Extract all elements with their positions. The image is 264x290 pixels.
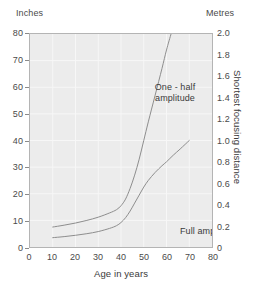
x-tick-50: 50	[134, 252, 154, 262]
curve-layer	[30, 34, 212, 247]
y-tick-right-1: 0.2	[217, 222, 241, 232]
y-tick-mark-left-70	[25, 60, 29, 61]
curve-series-0	[53, 34, 171, 227]
y-tick-left-80: 80	[3, 28, 23, 38]
y-tick-left-20: 20	[3, 189, 23, 199]
x-tick-60: 60	[157, 252, 177, 262]
focusing-distance-chart: Inches Metres One - half amplitude Full …	[0, 0, 264, 290]
y-tick-mark-left-30	[25, 167, 29, 168]
y-tick-left-10: 10	[3, 216, 23, 226]
y-tick-left-30: 30	[3, 162, 23, 172]
x-tick-10: 10	[42, 252, 62, 262]
annotation-one-half-line1: One - half	[155, 82, 196, 92]
y-tick-mark-left-20	[25, 194, 29, 195]
y-tick-right-2: 0.4	[217, 200, 241, 210]
y-tick-mark-left-10	[25, 221, 29, 222]
right-axis-title: Shortest focusing distance	[232, 70, 243, 184]
y-tick-right-9: 1.8	[217, 50, 241, 60]
y-tick-left-50: 50	[3, 109, 23, 119]
y-tick-right-10: 2.0	[217, 28, 241, 38]
y-tick-mark-left-50	[25, 114, 29, 115]
x-tick-20: 20	[65, 252, 85, 262]
annotation-full-amplitude: Full amplitude	[180, 226, 213, 237]
x-tick-40: 40	[111, 252, 131, 262]
y-tick-left-60: 60	[3, 82, 23, 92]
y-tick-mark-left-0	[25, 248, 29, 249]
annotation-one-half-line2: amplitude	[155, 93, 195, 103]
left-axis-unit-header: Inches	[16, 8, 43, 18]
x-axis-title: Age in years	[29, 268, 213, 279]
y-tick-mark-left-80	[25, 33, 29, 34]
y-tick-mark-left-60	[25, 87, 29, 88]
y-tick-left-70: 70	[3, 55, 23, 65]
y-tick-mark-left-40	[25, 141, 29, 142]
annotation-one-half-amplitude: One - half amplitude	[135, 82, 213, 104]
x-tick-70: 70	[180, 252, 200, 262]
y-tick-left-40: 40	[3, 136, 23, 146]
x-tick-30: 30	[88, 252, 108, 262]
x-tick-0: 0	[19, 252, 39, 262]
plot-area: One - half amplitude Full amplitude	[29, 33, 213, 248]
right-axis-unit-header: Metres	[206, 8, 234, 18]
x-tick-80: 80	[203, 252, 223, 262]
